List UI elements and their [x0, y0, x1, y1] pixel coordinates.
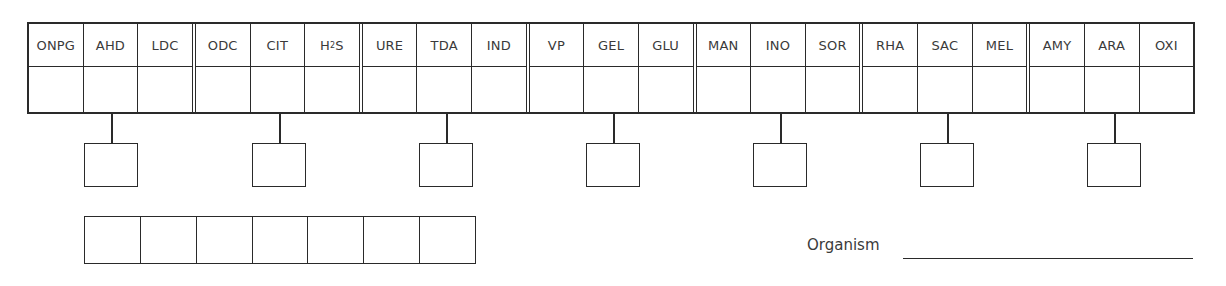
- test-label-mel: MEL: [973, 24, 1027, 67]
- h2s-tail: S: [335, 38, 343, 53]
- test-label-h2s: H2S: [305, 24, 359, 67]
- organism-label: Organism: [807, 236, 880, 254]
- group-4-connector: [613, 114, 615, 144]
- result-cell-sac[interactable]: [918, 67, 972, 112]
- result-cell-vp[interactable]: [530, 67, 584, 112]
- result-cell-ino[interactable]: [751, 67, 805, 112]
- test-column-ldc: LDC: [138, 24, 196, 112]
- test-label-oxi: OXI: [1140, 24, 1194, 67]
- group-5-connector: [780, 114, 782, 144]
- result-cell-amy[interactable]: [1030, 67, 1084, 112]
- profile-code-digit-3[interactable]: [197, 217, 253, 263]
- profile-code-digit-6[interactable]: [364, 217, 420, 263]
- test-label-tda: TDA: [417, 24, 471, 67]
- test-label-ure: URE: [363, 24, 417, 67]
- test-label-ino: INO: [751, 24, 805, 67]
- result-cell-sor[interactable]: [806, 67, 860, 112]
- group-2-connector: [279, 114, 281, 144]
- group-5-score-box[interactable]: [753, 143, 807, 187]
- profile-code-digit-1[interactable]: [85, 217, 141, 263]
- group-7-connector: [1114, 114, 1116, 144]
- result-cell-rha[interactable]: [863, 67, 917, 112]
- test-label-ldc: LDC: [138, 24, 192, 67]
- h2s-base: H: [320, 38, 330, 53]
- result-cell-mel[interactable]: [973, 67, 1027, 112]
- test-column-sac: SAC: [918, 24, 973, 112]
- result-cell-ldc[interactable]: [138, 67, 192, 112]
- test-column-ind: IND: [472, 24, 530, 112]
- test-column-ure: URE: [363, 24, 418, 112]
- group-4-score-box[interactable]: [586, 143, 640, 187]
- result-cell-ahd[interactable]: [84, 67, 138, 112]
- group-1-score-box[interactable]: [84, 143, 138, 187]
- test-column-amy: AMY: [1030, 24, 1085, 112]
- profile-code-row: [84, 216, 476, 264]
- profile-code-digit-5[interactable]: [308, 217, 364, 263]
- result-cell-gel[interactable]: [584, 67, 638, 112]
- test-label-vp: VP: [530, 24, 584, 67]
- result-cell-tda[interactable]: [417, 67, 471, 112]
- test-label-sac: SAC: [918, 24, 972, 67]
- result-cell-h2s[interactable]: [305, 67, 359, 112]
- test-label-odc: ODC: [196, 24, 250, 67]
- test-column-h2s: H2S: [305, 24, 363, 112]
- test-column-glu: GLU: [639, 24, 697, 112]
- result-cell-odc[interactable]: [196, 67, 250, 112]
- test-column-mel: MEL: [973, 24, 1031, 112]
- profile-code-digit-4[interactable]: [253, 217, 309, 263]
- result-cell-ara[interactable]: [1085, 67, 1139, 112]
- test-column-sor: SOR: [806, 24, 864, 112]
- result-cell-ind[interactable]: [472, 67, 526, 112]
- test-column-ahd: AHD: [84, 24, 139, 112]
- group-6-score-box[interactable]: [920, 143, 974, 187]
- test-label-sor: SOR: [806, 24, 860, 67]
- test-column-cit: CIT: [251, 24, 306, 112]
- test-label-ind: IND: [472, 24, 526, 67]
- test-column-ara: ARA: [1085, 24, 1140, 112]
- test-column-vp: VP: [530, 24, 585, 112]
- profile-code-digit-2[interactable]: [141, 217, 197, 263]
- result-cell-glu[interactable]: [639, 67, 693, 112]
- test-column-oxi: OXI: [1140, 24, 1194, 112]
- test-column-rha: RHA: [863, 24, 918, 112]
- test-results-grid: ONPG AHD LDC ODC CIT H2S URE TDA IND VP …: [27, 22, 1195, 114]
- group-1-connector: [111, 114, 113, 144]
- test-label-ara: ARA: [1085, 24, 1139, 67]
- test-column-tda: TDA: [417, 24, 472, 112]
- result-cell-ure[interactable]: [363, 67, 417, 112]
- result-cell-oxi[interactable]: [1140, 67, 1194, 112]
- test-label-onpg: ONPG: [29, 24, 83, 67]
- profile-code-digit-7[interactable]: [420, 217, 475, 263]
- group-3-connector: [446, 114, 448, 144]
- group-2-score-box[interactable]: [252, 143, 306, 187]
- test-label-ahd: AHD: [84, 24, 138, 67]
- result-cell-onpg[interactable]: [29, 67, 83, 112]
- result-cell-man[interactable]: [697, 67, 751, 112]
- group-6-connector: [947, 114, 949, 144]
- test-column-ino: INO: [751, 24, 806, 112]
- test-column-man: MAN: [697, 24, 752, 112]
- test-column-gel: GEL: [584, 24, 639, 112]
- test-label-man: MAN: [697, 24, 751, 67]
- test-label-amy: AMY: [1030, 24, 1084, 67]
- test-label-glu: GLU: [639, 24, 693, 67]
- test-label-gel: GEL: [584, 24, 638, 67]
- test-column-onpg: ONPG: [29, 24, 84, 112]
- result-cell-cit[interactable]: [251, 67, 305, 112]
- test-label-rha: RHA: [863, 24, 917, 67]
- organism-input[interactable]: [903, 258, 1193, 259]
- test-label-cit: CIT: [251, 24, 305, 67]
- test-column-odc: ODC: [196, 24, 251, 112]
- group-3-score-box[interactable]: [419, 143, 473, 187]
- group-7-score-box[interactable]: [1087, 143, 1141, 187]
